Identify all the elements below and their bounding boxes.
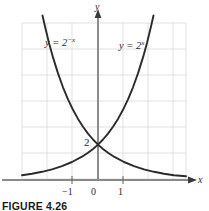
- y-intercept-label: 2: [84, 136, 90, 148]
- x-axis-label: x: [198, 175, 202, 185]
- figure-caption: FIGURE 4.26: [2, 200, 67, 211]
- curve-label-decay: y = 2−x: [45, 38, 75, 49]
- x-tick-label-zero: 0: [91, 186, 96, 197]
- curve-label-growth: y = 2x: [119, 41, 144, 52]
- exponential-graph: [0, 0, 209, 211]
- x-axis: [2, 176, 197, 183]
- x-tick-label-negative-one: −1: [62, 186, 73, 197]
- x-tick-label-one: 1: [118, 186, 123, 197]
- figure-container: y = 2−x y = 2x y x 2 −1 0 1 FIGURE 4.26: [0, 0, 209, 211]
- y-axis: [95, 9, 102, 180]
- y-axis-label: y: [95, 2, 99, 12]
